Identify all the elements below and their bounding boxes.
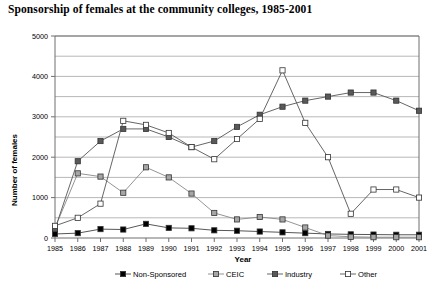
data-point-marker	[189, 191, 194, 196]
series-industry	[52, 90, 421, 232]
x-tick-label: 1987	[93, 244, 109, 253]
legend-label: Other	[358, 270, 377, 279]
data-point-marker	[166, 130, 171, 135]
data-point-marker	[348, 90, 353, 95]
data-point-marker	[371, 235, 376, 240]
data-point-marker	[257, 229, 262, 234]
series-other	[52, 68, 421, 229]
y-tick-label: 3000	[32, 112, 48, 121]
legend-item-ceic[interactable]: CEIC	[208, 270, 245, 279]
data-point-marker	[348, 234, 353, 239]
data-point-marker	[280, 104, 285, 109]
data-point-marker	[303, 120, 308, 125]
y-tick-label: 4000	[32, 72, 48, 81]
x-tick-label: 1992	[206, 244, 222, 253]
data-point-marker	[212, 138, 217, 143]
data-point-marker	[325, 155, 330, 160]
data-point-marker	[371, 90, 376, 95]
y-tick-label: 1000	[32, 193, 48, 202]
data-point-marker	[394, 187, 399, 192]
data-point-marker	[257, 214, 262, 219]
data-point-marker	[394, 235, 399, 240]
data-point-marker	[98, 201, 103, 206]
data-point-marker	[234, 228, 239, 233]
data-series-layer	[52, 68, 421, 240]
legend-marker	[345, 271, 350, 276]
data-point-marker	[234, 217, 239, 222]
data-point-marker	[121, 190, 126, 195]
x-axis-title: Year	[235, 255, 252, 264]
data-point-marker	[303, 225, 308, 230]
series-line	[55, 93, 419, 230]
data-point-marker	[416, 235, 421, 240]
data-point-marker	[257, 116, 262, 121]
x-tick-label: 1988	[115, 244, 131, 253]
data-point-marker	[166, 225, 171, 230]
x-tick-label: 1998	[343, 244, 359, 253]
data-point-marker	[121, 118, 126, 123]
x-tick-label: 1995	[275, 244, 291, 253]
x-axis-ticks: 1985198619871988198919901991199219931994…	[47, 238, 427, 253]
legend-label: CEIC	[226, 270, 245, 279]
legend-item-other[interactable]: Other	[340, 270, 377, 279]
data-point-marker	[394, 98, 399, 103]
x-tick-label: 1999	[366, 244, 382, 253]
x-tick-label: 1991	[184, 244, 200, 253]
data-point-marker	[166, 175, 171, 180]
data-point-marker	[416, 195, 421, 200]
y-tick-label: 0	[44, 234, 48, 243]
data-point-marker	[234, 136, 239, 141]
x-tick-label: 1989	[138, 244, 154, 253]
data-point-marker	[98, 227, 103, 232]
series-non-sponsored	[52, 221, 421, 237]
legend-item-non-sponsored[interactable]: Non-Sponsored	[115, 270, 186, 279]
legend-label: Industry	[285, 270, 312, 279]
chart-figure: Sponsorship of females at the community …	[0, 0, 431, 295]
legend-marker	[213, 271, 218, 276]
data-point-marker	[189, 226, 194, 231]
data-point-marker	[325, 94, 330, 99]
x-tick-label: 1993	[229, 244, 245, 253]
data-point-marker	[371, 187, 376, 192]
data-point-marker	[143, 165, 148, 170]
data-point-marker	[280, 230, 285, 235]
data-point-marker	[52, 231, 57, 236]
data-point-marker	[75, 215, 80, 220]
data-point-marker	[280, 217, 285, 222]
data-point-marker	[280, 68, 285, 73]
legend-marker	[120, 271, 125, 276]
x-tick-label: 2000	[388, 244, 404, 253]
data-point-marker	[348, 211, 353, 216]
legend-label: Non-Sponsored	[133, 270, 186, 279]
x-tick-label: 1986	[70, 244, 86, 253]
data-point-marker	[75, 159, 80, 164]
x-tick-label: 1997	[320, 244, 336, 253]
data-point-marker	[121, 227, 126, 232]
data-point-marker	[75, 231, 80, 236]
data-point-marker	[52, 223, 57, 228]
data-point-marker	[303, 231, 308, 236]
data-point-marker	[212, 228, 217, 233]
y-tick-label: 2000	[32, 153, 48, 162]
data-point-marker	[325, 233, 330, 238]
y-tick-label: 5000	[32, 32, 48, 41]
x-tick-label: 1996	[297, 244, 313, 253]
y-axis-title: Number of females	[10, 133, 19, 206]
series-line	[55, 167, 419, 237]
data-point-marker	[98, 174, 103, 179]
x-tick-label: 1994	[252, 244, 268, 253]
data-point-marker	[416, 108, 421, 113]
data-point-marker	[75, 171, 80, 176]
data-point-marker	[234, 124, 239, 129]
x-tick-label: 2001	[411, 244, 427, 253]
data-point-marker	[212, 210, 217, 215]
legend-item-industry[interactable]: Industry	[267, 270, 312, 279]
series-line	[55, 70, 419, 226]
chart-plot-area: 010002000300040005000 198519861987198819…	[0, 0, 431, 295]
data-point-marker	[189, 145, 194, 150]
chart-legend: Non-SponsoredCEICIndustryOther	[115, 270, 377, 279]
legend-marker	[272, 271, 277, 276]
data-point-marker	[303, 98, 308, 103]
data-point-marker	[143, 221, 148, 226]
data-point-marker	[212, 157, 217, 162]
